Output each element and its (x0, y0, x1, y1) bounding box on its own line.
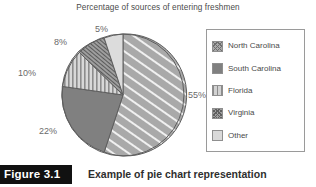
pie-label-florida: 10% (18, 68, 36, 78)
legend-item-other[interactable]: Other (212, 129, 300, 142)
legend-label: North Carolina (228, 42, 280, 50)
pie-label-other: 5% (95, 24, 108, 34)
figure-caption: Figure 3.1 Example of pie chart represen… (0, 163, 316, 185)
legend-label: Florida (228, 87, 252, 95)
figure-container: Percentage of sources of entering freshm… (0, 0, 316, 187)
legend-item-florida[interactable]: Florida (212, 84, 300, 97)
legend-label: South Carolina (228, 65, 281, 73)
pie-label-south-carolina: 22% (39, 126, 57, 136)
figure-caption-text: Example of pie chart representation (88, 168, 267, 180)
figure-number-badge: Figure 3.1 (0, 165, 72, 184)
dense-crosshatch-swatch (212, 108, 223, 119)
legend-item-north-carolina[interactable]: North Carolina (212, 40, 300, 53)
pie-label-north-carolina: 55% (188, 90, 206, 100)
solid-dark-swatch (212, 63, 223, 74)
light-gray-swatch (212, 130, 223, 141)
legend-label: Other (228, 132, 248, 140)
pie-chart-svg: 55% 22% 10% 8% 5% (0, 18, 206, 160)
chart-title: Percentage of sources of entering freshm… (0, 3, 316, 12)
legend-item-virginia[interactable]: Virginia (212, 107, 300, 120)
vertical-stripe-swatch (212, 85, 223, 96)
pie-label-virginia: 8% (54, 37, 67, 47)
pie-chart: 55% 22% 10% 8% 5% (0, 18, 206, 160)
legend-label: Virginia (228, 109, 255, 117)
chart-legend: North Carolina South Carolina Florida Vi… (206, 29, 305, 152)
crosshatch-swatch (212, 41, 223, 52)
legend-list: North Carolina South Carolina Florida Vi… (212, 35, 300, 147)
legend-item-south-carolina[interactable]: South Carolina (212, 62, 300, 75)
